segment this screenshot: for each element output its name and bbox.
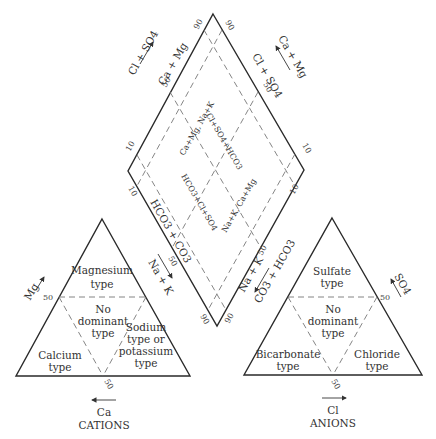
region-calcium: Calcium <box>38 349 82 361</box>
tick-label: 90 <box>223 312 236 325</box>
tick-label: 50 <box>43 293 53 302</box>
region-sulfate: Sulfate <box>313 265 351 277</box>
tick-label: 90 <box>198 313 211 326</box>
arrow-label-ca-mg: Ca + Mg <box>276 33 310 80</box>
region-bicarbonate-type: type <box>276 360 299 372</box>
region-no-dominant: No <box>325 303 341 315</box>
region-no-dominant: dominant <box>308 315 359 327</box>
axis-hco3-co3: HCO3 + CO3 <box>148 197 194 265</box>
region-chloride-type: type <box>365 360 388 372</box>
diamond-dash-3 <box>204 30 295 186</box>
tick-label: 10 <box>124 140 137 153</box>
region-no-dominant: No <box>95 303 111 315</box>
arrow-up-icon <box>36 277 44 290</box>
region-potassium: potassium <box>119 345 173 357</box>
tick-label: 50 <box>329 378 342 391</box>
cations-triangle: Magnesium type No dominant type Calcium … <box>16 219 190 431</box>
axis-ca-mg: Ca + Mg <box>155 40 189 87</box>
inner-label-br: Na+K, Ca+Mg <box>220 177 258 234</box>
piper-diagram: Ca + Mg Cl + SO4 HCO3 + CO3 Na + K Cl + … <box>0 0 436 439</box>
tick-label: 50 <box>380 293 390 302</box>
inner-label-tl: Ca+Mg, Na+K <box>178 99 217 157</box>
region-sodium: type or <box>127 333 166 345</box>
region-sulfate-type: type <box>320 277 343 289</box>
region-no-dominant: type <box>91 327 114 339</box>
region-calcium-type: type <box>48 361 71 373</box>
region-magnesium-type: type <box>90 278 113 290</box>
tick-label: 10 <box>300 142 313 155</box>
cations-title: CATIONS <box>78 419 129 431</box>
axis-cl: Cl <box>327 404 339 416</box>
arrow-label-cl-so4: Cl + SO4 <box>125 28 160 77</box>
inner-label-tr: Cl+SO4+HCO3 <box>204 112 244 172</box>
region-no-dominant: type <box>321 327 344 339</box>
axis-so4: SO4 <box>392 271 414 297</box>
tick-label: 90 <box>223 19 236 32</box>
tick-label: 50 <box>256 244 269 257</box>
tick-label: 90 <box>192 18 205 31</box>
region-chloride: Chloride <box>354 348 400 360</box>
anions-title: ANIONS <box>309 417 356 429</box>
tick-label: 50 <box>102 378 115 391</box>
axis-ca: Ca <box>97 406 111 418</box>
region-sodium: Sodium <box>126 321 166 333</box>
region-bicarbonate: Bicarbonate <box>256 348 321 360</box>
region-no-dominant: dominant <box>78 315 129 327</box>
diamond: Ca + Mg Cl + SO4 HCO3 + CO3 Na + K Cl + … <box>124 14 313 326</box>
region-potassium-type: type <box>134 357 157 369</box>
axis-mg: Mg <box>21 281 40 302</box>
region-magnesium: Magnesium <box>71 264 133 276</box>
anions-triangle: Sulfate type No dominant type Bicarbonat… <box>244 218 422 429</box>
